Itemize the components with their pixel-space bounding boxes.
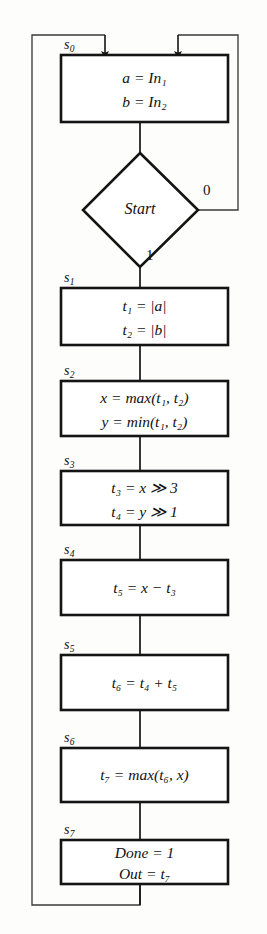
box-s2-line-2: y = min(t₁, t₂) [61, 414, 228, 430]
entry-arrows [105, 35, 178, 55]
box-s3-line-2: t₄ = y ≫ 1 [61, 504, 228, 520]
box-s5-line-1: t₆ = t₄ + t₅ [61, 675, 228, 691]
box-s2-line-1: x = max(t₁, t₂) [61, 390, 228, 406]
flowchart-canvas [0, 0, 267, 934]
state-label-s6: s6 [64, 731, 75, 747]
state-label-s4: s4 [64, 543, 75, 559]
decision-label: Start [83, 201, 197, 217]
state-label-s2: s2 [64, 364, 75, 380]
box-s1-line-2: t₂ = |b| [61, 322, 228, 338]
box-s0-line-2: b = In₂ [61, 94, 228, 110]
decision-branch-false-label: 0 [203, 183, 211, 198]
box-s7-line-1: Done = 1 [61, 845, 228, 861]
state-label-s1: s1 [64, 271, 75, 287]
box-s1-line-1: t₁ = |a| [61, 298, 228, 314]
state-label-s0: s0 [64, 38, 75, 54]
box-s0-line-1: a = In₁ [61, 70, 228, 86]
box-s4-line-1: t₅ = x − t₃ [61, 580, 228, 596]
decision-branch-true-label: 1 [146, 248, 154, 263]
state-label-s5: s5 [64, 638, 75, 654]
state-label-s7: s7 [64, 823, 75, 839]
flowchart-diagram: s0 s1 s2 s3 s4 s5 s6 s7 a = In₁ b = In₂ … [0, 0, 267, 934]
box-s6-line-1: t₇ = max(t₆, x) [61, 767, 228, 783]
box-s3-line-1: t₃ = x ≫ 3 [61, 480, 228, 496]
box-s7-line-2: Out = t₇ [61, 866, 228, 882]
box-s0 [61, 55, 228, 122]
state-label-s3: s3 [64, 454, 75, 470]
